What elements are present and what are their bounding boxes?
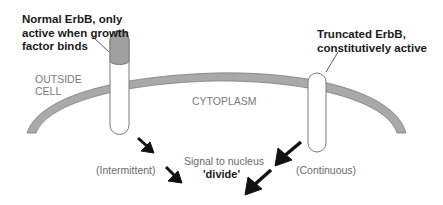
cytoplasm-label: CYTOPLASM — [192, 95, 257, 107]
truncated-receptor-leader-line — [326, 52, 338, 72]
continuous-label: (Continuous) — [296, 163, 356, 177]
truncated-erbb-receptor — [308, 52, 338, 152]
arrow-icon — [245, 170, 271, 195]
arrow-icon — [166, 167, 182, 183]
outside-cell-label: OUTSIDE CELL — [35, 73, 82, 97]
divide-label: 'divide' — [203, 167, 240, 181]
continuous-signal-arrows — [245, 142, 301, 195]
truncated-erbb-label: Truncated ErbB, constitutively active — [317, 28, 427, 55]
arrow-icon — [138, 138, 154, 153]
intermittent-label: (Intermittent) — [96, 163, 156, 177]
normal-erbb-label: Normal ErbB, only active when growth fac… — [22, 13, 129, 54]
signal-to-nucleus-label: Signal to nucleus — [184, 154, 264, 168]
